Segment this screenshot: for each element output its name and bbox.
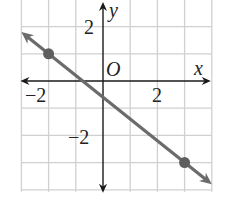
data-point xyxy=(179,157,190,168)
y-tick-label-neg2: −2 xyxy=(68,127,89,147)
x-tick-label-neg2: −2 xyxy=(25,85,46,105)
y-axis-label: y xyxy=(109,0,118,20)
y-tick-label-2: 2 xyxy=(84,17,94,37)
x-tick-label-2: 2 xyxy=(152,85,162,105)
origin-label: O xyxy=(106,59,120,79)
x-axis-label: x xyxy=(194,58,203,78)
data-point xyxy=(43,48,54,59)
